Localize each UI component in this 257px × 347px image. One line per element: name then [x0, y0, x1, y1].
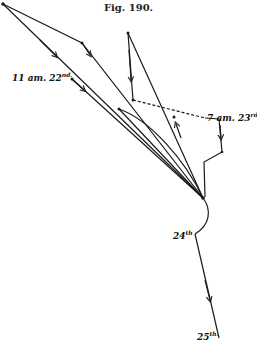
track-curve [195, 198, 208, 234]
figure-190: Fig. 190. [0, 0, 257, 347]
track-step [204, 118, 222, 197]
track-dashed [133, 100, 205, 118]
track-diagram [0, 0, 257, 347]
track-lower [3, 4, 203, 198]
label-7am-23rd: 7 am. 23rd. [207, 111, 257, 123]
label-24th: 24th [173, 229, 193, 241]
label-25th: 25th. [197, 330, 219, 342]
label-11am-22nd: 11 am. 22nd. [12, 71, 72, 83]
track-11am [72, 79, 203, 198]
